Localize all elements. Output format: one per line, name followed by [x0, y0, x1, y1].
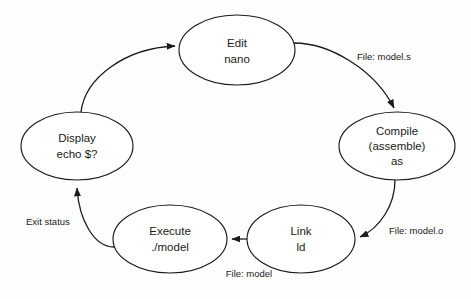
- node-link[interactable]: Link ld: [247, 205, 355, 273]
- node-shape-edit[interactable]: [179, 15, 295, 85]
- edge-display-to-edit: [81, 46, 175, 112]
- node-shape-display[interactable]: [21, 112, 133, 180]
- edge-execute-to-display: Exit status: [26, 188, 114, 247]
- node-label-display-line-2: echo $?: [57, 148, 98, 160]
- node-label-execute-line-2: ./model: [151, 241, 189, 253]
- cycle-diagram: File: model.s File: model.o File: model …: [0, 0, 471, 299]
- edge-compile-to-link: File: model.o: [360, 180, 443, 237]
- node-label-link-line-2: ld: [297, 241, 306, 253]
- node-label-execute-line-1: Execute: [149, 225, 191, 237]
- node-shape-link[interactable]: [247, 205, 355, 273]
- node-label-edit-line-1: Edit: [227, 37, 248, 49]
- node-display[interactable]: Display echo $?: [21, 112, 133, 180]
- node-execute[interactable]: Execute ./model: [113, 205, 227, 273]
- node-label-compile-line-3: as: [391, 155, 403, 167]
- node-label-link-line-1: Link: [290, 225, 311, 237]
- edge-label-exit-status: Exit status: [26, 216, 70, 227]
- node-compile[interactable]: Compile (assemble) as: [339, 112, 455, 180]
- node-shape-execute[interactable]: [113, 205, 227, 273]
- edge-label-file-model-o: File: model.o: [389, 225, 443, 236]
- node-label-compile-line-2: (assemble): [369, 140, 426, 152]
- node-edit[interactable]: Edit nano: [179, 15, 295, 85]
- edge-path-execute-to-display: [77, 188, 114, 247]
- edge-label-file-model-s: File: model.s: [357, 51, 411, 62]
- edge-edit-to-compile: File: model.s: [294, 43, 411, 108]
- node-label-edit-line-2: nano: [224, 53, 250, 65]
- edge-path-display-to-edit: [81, 46, 175, 112]
- edge-label-file-model: File: model: [226, 268, 272, 279]
- node-label-compile-line-1: Compile: [376, 125, 418, 137]
- diagram-canvas: File: model.s File: model.o File: model …: [0, 0, 471, 299]
- node-label-display-line-1: Display: [58, 132, 96, 144]
